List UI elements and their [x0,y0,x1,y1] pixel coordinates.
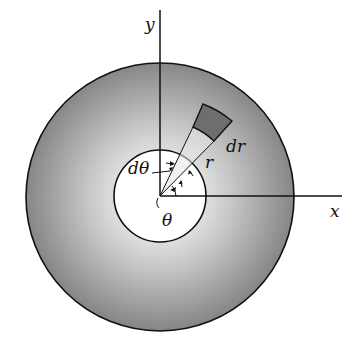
theta-label: θ [162,212,172,229]
dr-label: dr [226,138,245,155]
y-axis-label: y [145,16,155,33]
dtheta-label: dθ [128,160,149,177]
x-axis-label: x [330,203,340,220]
annulus-diagram [0,0,364,353]
r-label: r [205,154,213,171]
